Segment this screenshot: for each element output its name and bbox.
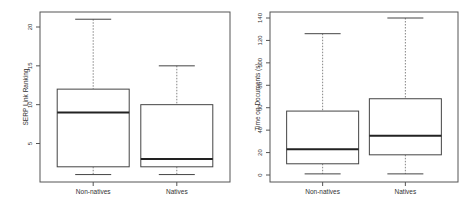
x-tick-label: Natives [395,188,417,195]
y-tick-label: 120 [257,35,263,46]
y-tick-label: 0 [257,173,263,177]
x-tick-label: Natives [166,188,188,195]
boxplot-svg: 5101520SERP Link RankingNon-nativesNativ… [0,0,236,207]
x-tick-label: Non-natives [305,188,340,195]
y-tick-label: 5 [27,141,33,145]
box-non-natives: Non-natives [287,34,359,195]
y-tick-label: 15 [27,62,33,69]
iqr-box [287,111,359,164]
box-non-natives: Non-natives [57,19,129,195]
box-natives: Natives [141,66,213,195]
chart-time-on-documents: 020406080100120140Time on Documents (s)N… [236,0,472,207]
chart-serp-link-ranking: 5101520SERP Link RankingNon-nativesNativ… [0,0,236,207]
y-tick-label: 140 [257,12,263,23]
y-axis-label: SERP Link Ranking [22,68,30,125]
y-tick-label: 20 [27,23,33,30]
iqr-box [369,99,441,155]
y-axis-label: Time on Documents (s) [254,63,262,130]
iqr-box [57,89,129,167]
boxplot-svg: 020406080100120140Time on Documents (s)N… [236,0,472,207]
y-tick-label: 20 [257,149,263,156]
box-natives: Natives [369,18,441,195]
iqr-box [141,105,213,167]
x-tick-label: Non-natives [76,188,111,195]
